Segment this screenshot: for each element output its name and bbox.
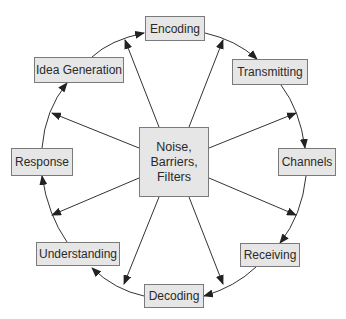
- step-label: Idea Generation: [36, 63, 122, 77]
- step-transmitting: Transmitting: [232, 59, 308, 85]
- step-response: Response: [11, 148, 73, 176]
- arc-understanding-to-response: [42, 176, 67, 242]
- spoke-to-channels-side: [209, 113, 296, 148]
- spoke-to-encoding-side: [125, 40, 159, 127]
- spoke-to-receiving-side: [209, 178, 296, 215]
- arc-encoding-to-transmitting: [205, 33, 257, 59]
- center-line-1: Noise,: [156, 140, 191, 155]
- step-channels: Channels: [278, 148, 336, 176]
- step-label: Decoding: [149, 289, 200, 303]
- step-receiving: Receiving: [240, 243, 300, 267]
- center-noise-barriers-filters: Noise, Barriers, Filters: [139, 127, 209, 197]
- spoke-to-decoding-right: [189, 197, 223, 284]
- center-line-3: Filters: [157, 170, 191, 185]
- step-label: Transmitting: [237, 65, 303, 79]
- arc-response-to-idea: [42, 83, 67, 148]
- arc-idea-to-encoding: [92, 33, 144, 57]
- spoke-to-idea-side: [52, 113, 139, 148]
- step-idea-generation: Idea Generation: [34, 57, 124, 83]
- step-label: Understanding: [39, 247, 117, 261]
- spoke-to-transmitting-side: [189, 40, 223, 127]
- arc-decoding-to-understanding: [92, 268, 144, 296]
- step-decoding: Decoding: [144, 284, 204, 308]
- step-understanding: Understanding: [36, 242, 120, 266]
- step-label: Encoding: [150, 22, 200, 36]
- arc-receiving-to-decoding: [204, 267, 256, 296]
- spoke-to-understanding-side: [52, 178, 139, 215]
- center-line-2: Barriers,: [150, 155, 197, 170]
- arc-transmitting-to-channels: [281, 85, 305, 148]
- step-label: Response: [15, 155, 69, 169]
- step-encoding: Encoding: [145, 16, 205, 41]
- step-label: Channels: [282, 155, 333, 169]
- spoke-to-decoding-left: [124, 197, 159, 284]
- step-label: Receiving: [244, 248, 297, 262]
